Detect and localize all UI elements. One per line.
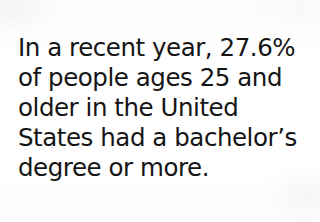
statement-line-4: States had a bachelor’s bbox=[18, 123, 310, 153]
statement-text-block: In a recent year, 27.6% of people ages 2… bbox=[18, 33, 310, 183]
statement-line-3: older in the United bbox=[18, 93, 310, 123]
statement-line-1: In a recent year, 27.6% bbox=[18, 33, 310, 63]
statement-line-5: degree or more. bbox=[18, 153, 310, 183]
statement-line-2: of people ages 25 and bbox=[18, 63, 310, 93]
statement-slide: In a recent year, 27.6% of people ages 2… bbox=[0, 0, 320, 222]
